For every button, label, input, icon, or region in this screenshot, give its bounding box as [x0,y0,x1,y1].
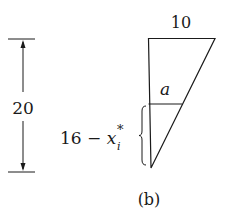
top-width-label: 10 [171,13,191,32]
brace-icon [139,106,146,165]
height-label: 20 [12,98,34,118]
figure-caption: (b) [138,190,161,209]
up-arrow-icon [21,40,26,48]
depth-expr-variable: x [107,128,117,148]
triangle-outline [149,39,216,169]
triangle [149,39,216,169]
cross-section-label: a [160,79,170,99]
depth-expr-superscript: * [117,122,124,137]
depth-expression: 16 − x [60,128,117,148]
depth-expr-base: 16 − [60,128,107,148]
depth-expr-subscript: i [117,140,121,153]
down-arrow-icon [21,163,26,171]
triangle-diagram: 20 10 a 16 − x i * (b) [0,0,230,219]
